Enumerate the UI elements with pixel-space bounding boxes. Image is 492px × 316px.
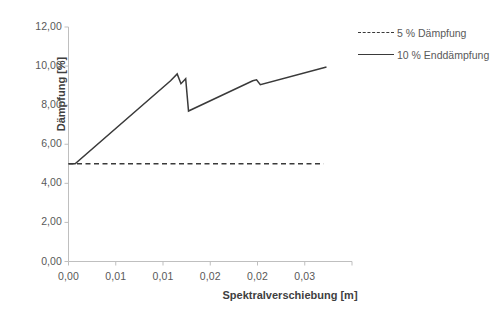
chart-legend: 5 % Dämpfung 10 % Enddämpfung — [358, 22, 490, 66]
y-axis-tick-label: 2,00 — [14, 215, 62, 227]
y-axis-tick-label: 4,00 — [14, 176, 62, 188]
y-axis-tick-label: 6,00 — [14, 137, 62, 149]
legend-solid-line-icon — [358, 49, 394, 61]
x-axis-tick-label: 0,01 — [138, 270, 188, 282]
x-axis-tick-label: 0,02 — [233, 270, 283, 282]
legend-item-label: 5 % Dämpfung — [394, 27, 466, 39]
x-axis-tick-label: 0,02 — [185, 270, 235, 282]
axis-lines — [69, 27, 353, 262]
legend-item-daempfung: 5 % Dämpfung — [358, 22, 490, 44]
x-axis-title: Spektralverschiebung [m] — [160, 289, 420, 301]
y-axis-title: Dämpfung [%] — [55, 39, 67, 149]
legend-item-label: 10 % Enddämpfung — [394, 49, 489, 61]
series-line-enddaempfung — [69, 67, 327, 164]
y-axis-tick-label: 0,00 — [14, 255, 62, 267]
legend-dashed-line-icon — [358, 27, 394, 39]
y-axis-tick-label: 12,00 — [14, 20, 62, 32]
chart-container: Dämpfung [%] Spektralverschiebung [m] 5 … — [0, 0, 492, 316]
x-axis-tick-label: 0,03 — [280, 270, 330, 282]
x-axis-tick-label: 0,00 — [44, 270, 94, 282]
y-axis-tick-label: 10,00 — [14, 59, 62, 71]
x-axis-tick-label: 0,01 — [91, 270, 141, 282]
y-axis-tick-label: 8,00 — [14, 98, 62, 110]
x-axis-ticks — [69, 262, 353, 266]
legend-item-enddaempfung: 10 % Enddämpfung — [358, 44, 490, 66]
